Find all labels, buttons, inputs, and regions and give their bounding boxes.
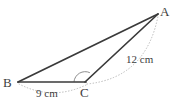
vertex-label-b: B bbox=[3, 76, 12, 89]
measurement-label-ca: 12 cm bbox=[126, 54, 153, 65]
measurement-label-bc: 9 cm bbox=[36, 88, 58, 99]
vertex-label-c: C bbox=[80, 86, 89, 99]
guide-arc-ca bbox=[87, 16, 158, 84]
vertex-label-a: A bbox=[160, 5, 169, 18]
geometry-figure: A B C 9 cm 12 cm bbox=[0, 0, 175, 104]
